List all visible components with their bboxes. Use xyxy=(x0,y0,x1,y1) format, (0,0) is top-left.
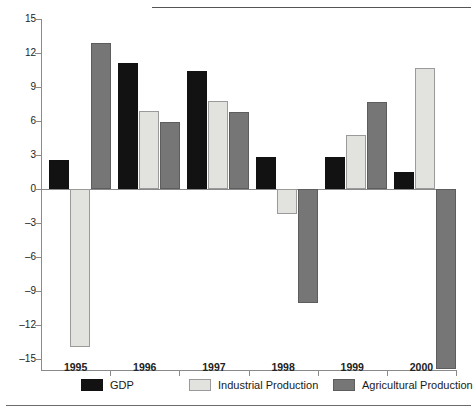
top-divider-rule xyxy=(152,7,471,8)
y-axis-tick xyxy=(35,155,41,156)
x-axis-label-1996: 1996 xyxy=(110,361,180,373)
zero-baseline xyxy=(41,189,456,190)
bar-1998-gdp xyxy=(256,157,276,189)
gdp-swatch-icon xyxy=(81,379,103,391)
y-axis-tick xyxy=(35,189,41,190)
bar-1996-gdp xyxy=(118,63,138,189)
y-axis-labels: 15129630–3–6–9–12–15 xyxy=(0,19,36,371)
x-axis-label-1998: 1998 xyxy=(248,361,318,373)
x-axis-label-1995: 1995 xyxy=(41,361,111,373)
y-axis-tick xyxy=(35,19,41,20)
bar-1998-agricultural-production xyxy=(298,189,318,303)
legend-label: Industrial Production xyxy=(218,379,318,391)
y-axis-tick xyxy=(35,325,41,326)
bar-1997-gdp xyxy=(187,71,207,189)
legend-item-gdp[interactable]: GDP xyxy=(81,379,134,391)
y-axis-tick xyxy=(35,257,41,258)
y-axis-tick-label: 12 xyxy=(10,48,36,58)
y-axis-tick-label: 6 xyxy=(10,116,36,126)
y-axis-tick-label: 0 xyxy=(10,184,36,194)
agricultural-swatch-icon xyxy=(333,379,355,391)
y-axis-tick-label: –3 xyxy=(10,218,36,228)
bar-1999-gdp xyxy=(325,157,345,189)
bar-1995-gdp xyxy=(49,160,69,189)
bar-2000-agricultural-production xyxy=(436,189,456,369)
bar-1996-industrial-production xyxy=(139,111,159,189)
bar-1995-agricultural-production xyxy=(91,43,111,189)
x-axis-label-1999: 1999 xyxy=(317,361,387,373)
bar-1999-agricultural-production xyxy=(367,102,387,189)
y-axis-tick-label: –12 xyxy=(10,320,36,330)
legend-label: GDP xyxy=(110,379,134,391)
legend-item-agricultural-production[interactable]: Agricultural Production xyxy=(333,379,473,391)
y-axis-tick-label: 15 xyxy=(10,14,36,24)
y-axis-tick-label: –9 xyxy=(10,286,36,296)
y-axis-tick xyxy=(35,121,41,122)
y-axis-tick-label: –6 xyxy=(10,252,36,262)
bar-2000-gdp xyxy=(394,172,414,189)
chart-plot-area xyxy=(41,19,456,371)
y-axis-tick-label: 3 xyxy=(10,150,36,160)
x-axis-label-1997: 1997 xyxy=(179,361,249,373)
bar-1996-agricultural-production xyxy=(160,122,180,189)
bar-1995-industrial-production xyxy=(70,189,90,347)
chart-legend: GDPIndustrial ProductionAgricultural Pro… xyxy=(41,379,471,399)
y-axis-tick xyxy=(35,87,41,88)
bar-1999-industrial-production xyxy=(346,135,366,189)
bottom-divider-rule xyxy=(6,405,471,406)
legend-label: Agricultural Production xyxy=(362,379,473,391)
bar-2000-industrial-production xyxy=(415,68,435,189)
industrial-swatch-icon xyxy=(189,379,211,391)
legend-item-industrial-production[interactable]: Industrial Production xyxy=(189,379,318,391)
bar-1998-industrial-production xyxy=(277,189,297,214)
bar-1997-industrial-production xyxy=(208,101,228,189)
y-axis-tick xyxy=(35,291,41,292)
y-axis-tick-label: 9 xyxy=(10,82,36,92)
bar-1997-agricultural-production xyxy=(229,112,249,189)
x-axis-label-2000: 2000 xyxy=(386,361,456,373)
y-axis-tick xyxy=(35,53,41,54)
y-axis-tick-label: –15 xyxy=(10,354,36,364)
y-axis-tick xyxy=(35,223,41,224)
y-axis-line xyxy=(41,19,42,371)
y-axis-tick xyxy=(35,359,41,360)
